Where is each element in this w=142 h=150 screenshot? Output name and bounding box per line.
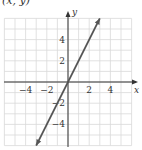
x-tick-label: −4 <box>19 85 33 95</box>
y-tick-label: −4 <box>52 119 66 129</box>
x-axis-label: x <box>134 85 139 95</box>
y-axis-arrow-icon <box>66 11 71 17</box>
y-axis-label: y <box>71 7 78 17</box>
coordinate-plane: x y −4−22442−2−4 <box>0 0 142 150</box>
x-tick-label: 4 <box>108 85 114 95</box>
axes: x y <box>4 7 139 147</box>
y-tick-label: 2 <box>59 56 65 66</box>
x-axis-arrow-icon <box>132 80 138 85</box>
x-tick-label: 2 <box>86 85 92 95</box>
x-tick-label: −2 <box>40 85 53 95</box>
y-tick-label: 4 <box>59 35 65 45</box>
